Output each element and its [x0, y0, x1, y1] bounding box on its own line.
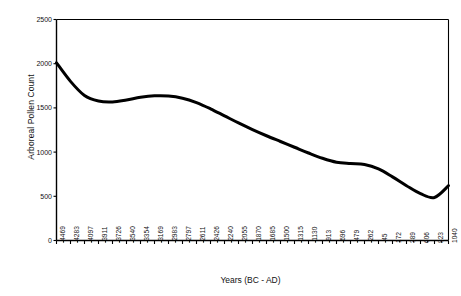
x-tick-label: -1500: [283, 203, 290, 243]
x-tick-label: -3540: [129, 203, 136, 243]
x-tick-label: -913: [325, 203, 332, 243]
x-tick-label: 606: [423, 203, 430, 243]
x-tick-label: -262: [367, 203, 374, 243]
x-tick-label: -2055: [241, 203, 248, 243]
x-tick-label: -1685: [269, 203, 276, 243]
x-tick-label: -2983: [171, 203, 178, 243]
x-axis-title: Years (BC - AD): [0, 275, 461, 285]
x-tick-label: -479: [353, 203, 360, 243]
x-tick-label: -2797: [185, 203, 192, 243]
x-tick-label: -2240: [227, 203, 234, 243]
x-tick-label: -4097: [87, 203, 94, 243]
x-tick-label: 389: [409, 203, 416, 243]
x-tick-label: -3169: [157, 203, 164, 243]
x-axis-tick-labels: -4469-4283-4097-3911-3726-3540-3354-3169…: [0, 0, 461, 296]
x-tick-label: -4469: [59, 203, 66, 243]
x-tick-label: -696: [339, 203, 346, 243]
x-tick-label: -2611: [199, 203, 206, 243]
x-tick-label: -4283: [73, 203, 80, 243]
x-tick-label: -3911: [101, 203, 108, 243]
x-tick-label: -1315: [297, 203, 304, 243]
x-tick-label: -45: [381, 203, 388, 243]
x-tick-label: -1130: [311, 203, 318, 243]
x-tick-label: -1870: [255, 203, 262, 243]
x-tick-label: -2426: [213, 203, 220, 243]
x-tick-label: 823: [437, 203, 444, 243]
x-tick-label: -3354: [143, 203, 150, 243]
x-tick-label: 1040: [451, 203, 458, 243]
x-tick-label: 172: [395, 203, 402, 243]
chart-figure: Arboreal Pollen Count 050010001500200025…: [0, 0, 461, 296]
x-tick-label: -3726: [115, 203, 122, 243]
